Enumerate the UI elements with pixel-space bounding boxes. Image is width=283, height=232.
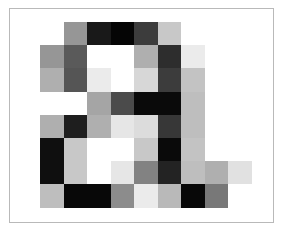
pixel-cell-r3-c6 xyxy=(181,92,205,116)
pixel-cell-r3-c4 xyxy=(134,92,158,116)
pixel-cell-r2-c1 xyxy=(64,68,88,92)
pixel-cell-r6-c6 xyxy=(181,161,205,185)
pixel-cell-r4-c7 xyxy=(205,115,229,139)
pixel-cell-r3-c5 xyxy=(158,92,182,116)
pixel-cell-r7-c0 xyxy=(40,184,64,208)
pixel-cell-r3-c0 xyxy=(40,92,64,116)
pixel-cell-r7-c6 xyxy=(181,184,205,208)
pixel-cell-r1-c0 xyxy=(40,45,64,69)
pixel-cell-r1-c5 xyxy=(158,45,182,69)
pixel-cell-r5-c4 xyxy=(134,138,158,162)
pixel-cell-r5-c0 xyxy=(40,138,64,162)
pixel-cell-r4-c5 xyxy=(158,115,182,139)
pixel-cell-r2-c6 xyxy=(181,68,205,92)
pixel-cell-r6-c2 xyxy=(87,161,111,185)
pixel-row xyxy=(0,45,283,68)
pixel-cell-r4-c3 xyxy=(111,115,135,139)
pixel-cell-r6-c4 xyxy=(134,161,158,185)
pixel-cell-r5-c2 xyxy=(87,138,111,162)
pixel-cell-r1-c8 xyxy=(228,45,252,69)
pixel-cell-r3-c1 xyxy=(64,92,88,116)
pixel-cell-r2-c7 xyxy=(205,68,229,92)
pixel-cell-r0-c3 xyxy=(111,22,135,46)
pixel-cell-r7-c4 xyxy=(134,184,158,208)
pixel-cell-r0-c0 xyxy=(40,22,64,46)
pixel-cell-r1-c7 xyxy=(205,45,229,69)
pixel-cell-r6-c1 xyxy=(64,161,88,185)
pixel-cell-r2-c8 xyxy=(228,68,252,92)
pixel-cell-r0-c2 xyxy=(87,22,111,46)
pixel-cell-r0-c6 xyxy=(181,22,205,46)
pixel-cell-r4-c2 xyxy=(87,115,111,139)
pixel-cell-r6-c8 xyxy=(228,161,252,185)
pixel-cell-r5-c6 xyxy=(181,138,205,162)
pixel-cell-r7-c1 xyxy=(64,184,88,208)
pixel-cell-r1-c6 xyxy=(181,45,205,69)
pixel-cell-r6-c3 xyxy=(111,161,135,185)
pixel-cell-r0-c8 xyxy=(228,22,252,46)
pixel-cell-r2-c3 xyxy=(111,68,135,92)
pixel-cell-r3-c8 xyxy=(228,92,252,116)
pixel-cell-r2-c2 xyxy=(87,68,111,92)
pixel-cell-r3-c2 xyxy=(87,92,111,116)
pixel-cell-r7-c2 xyxy=(87,184,111,208)
pixel-cell-r6-c0 xyxy=(40,161,64,185)
pixel-cell-r2-c0 xyxy=(40,68,64,92)
pixel-cell-r0-c4 xyxy=(134,22,158,46)
pixel-row xyxy=(0,184,283,207)
figure-root xyxy=(0,0,283,232)
pixel-row xyxy=(0,22,283,45)
pixel-cell-r7-c7 xyxy=(205,184,229,208)
pixel-cell-r3-c7 xyxy=(205,92,229,116)
pixel-cell-r4-c1 xyxy=(64,115,88,139)
pixel-cell-r4-c4 xyxy=(134,115,158,139)
pixel-cell-r4-c6 xyxy=(181,115,205,139)
pixel-cell-r0-c7 xyxy=(205,22,229,46)
pixel-row xyxy=(0,161,283,184)
pixel-cell-r5-c7 xyxy=(205,138,229,162)
pixel-cell-r6-c5 xyxy=(158,161,182,185)
pixel-cell-r5-c1 xyxy=(64,138,88,162)
pixel-row xyxy=(0,138,283,161)
pixel-row xyxy=(0,68,283,91)
pixel-cell-r7-c5 xyxy=(158,184,182,208)
pixel-cell-r1-c3 xyxy=(111,45,135,69)
pixel-cell-r5-c5 xyxy=(158,138,182,162)
pixel-cell-r0-c1 xyxy=(64,22,88,46)
pixel-cell-r3-c3 xyxy=(111,92,135,116)
pixel-cell-r4-c8 xyxy=(228,115,252,139)
pixel-cell-r5-c8 xyxy=(228,138,252,162)
pixel-cell-r1-c2 xyxy=(87,45,111,69)
pixel-cell-r4-c0 xyxy=(40,115,64,139)
pixel-row xyxy=(0,92,283,115)
pixel-cell-r7-c8 xyxy=(228,184,252,208)
pixel-grid-canvas xyxy=(0,0,283,232)
pixel-cell-r6-c7 xyxy=(205,161,229,185)
pixel-cell-r7-c3 xyxy=(111,184,135,208)
pixel-row xyxy=(0,115,283,138)
pixel-cell-r2-c4 xyxy=(134,68,158,92)
pixel-cell-r5-c3 xyxy=(111,138,135,162)
pixel-cell-r1-c4 xyxy=(134,45,158,69)
pixel-cell-r1-c1 xyxy=(64,45,88,69)
pixel-cell-r2-c5 xyxy=(158,68,182,92)
pixel-cell-r0-c5 xyxy=(158,22,182,46)
